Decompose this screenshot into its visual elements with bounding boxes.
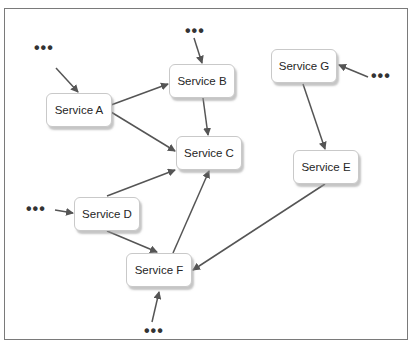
ellipsis-top-center: ••• (185, 26, 205, 36)
node-label: Service F (135, 264, 184, 276)
edge-ext-to-f (152, 292, 159, 322)
edge-d-to-f (107, 231, 157, 252)
edge-ext-to-b (194, 38, 202, 63)
node-label: Service D (82, 208, 132, 220)
node-label: Service E (301, 161, 350, 173)
node-service-b: Service B (169, 64, 235, 98)
edge-a-to-c (111, 112, 175, 151)
node-service-g: Service G (271, 49, 337, 83)
edge-ext-to-d (55, 210, 73, 213)
edge-e-to-f (193, 184, 325, 270)
ellipsis-bottom: ••• (144, 326, 164, 336)
node-label: Service A (55, 104, 104, 116)
edge-a-to-b (111, 84, 168, 105)
ellipsis-right: ••• (371, 71, 391, 81)
node-service-d: Service D (74, 197, 140, 231)
edge-ext-to-a (56, 68, 78, 92)
ellipsis-top-left: ••• (34, 43, 54, 53)
node-service-a: Service A (46, 93, 112, 127)
node-service-c: Service C (176, 136, 242, 170)
edge-d-to-c (107, 170, 175, 196)
node-label: Service C (184, 147, 234, 159)
edge-ext-to-g (339, 65, 368, 77)
edge-g-to-e (303, 84, 325, 149)
edge-f-to-c (173, 171, 209, 253)
ellipsis-left: ••• (26, 204, 46, 214)
node-label: Service G (279, 60, 330, 72)
node-service-f: Service F (126, 253, 192, 287)
node-label: Service B (177, 75, 226, 87)
edge-b-to-c (203, 98, 208, 135)
node-service-e: Service E (293, 150, 359, 184)
